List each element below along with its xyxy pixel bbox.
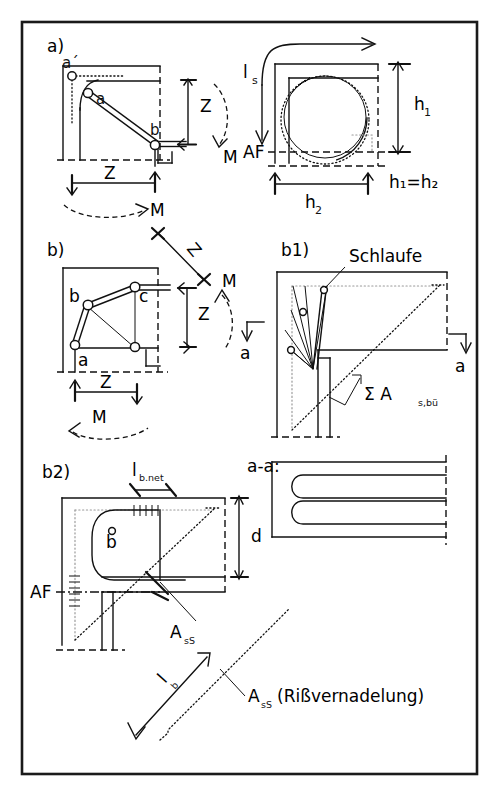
- node-a: [83, 88, 92, 97]
- panel-b1-callout-schlaufe: Schlaufe: [349, 246, 422, 266]
- engineering-diagram-svg: a´ a b Z M: [0, 0, 497, 791]
- figure-root: a´ a b Z M: [0, 0, 497, 791]
- panel-b-label-M-right: M: [222, 271, 237, 291]
- panel-b2-label-node-b: b: [106, 532, 117, 552]
- label-h1-sub: 1: [424, 106, 431, 119]
- stirrup-bar-marker-2: [300, 309, 307, 316]
- panel-b-node-b: [83, 300, 93, 310]
- panel-b1-label-section-a-right: a: [455, 356, 465, 376]
- panel-b-label-Z-horizontal: Z: [100, 372, 112, 392]
- node-a-prime: [68, 72, 76, 80]
- panel-b1-label: b1): [281, 240, 309, 260]
- panel-b-label-node-a: a: [78, 350, 88, 370]
- panel-b2-label-lbnet-sub: b.net: [139, 472, 164, 483]
- panel-a-label: a): [47, 36, 64, 56]
- label-ls-sub-a-right: s: [252, 74, 258, 87]
- label-node-a: a: [96, 90, 105, 108]
- panel-b-node-bottom: [130, 342, 139, 351]
- panel-b-node-a: [70, 340, 79, 349]
- stirrup-bar-marker-3: [288, 347, 295, 354]
- label-h2-sub: 2: [315, 204, 322, 217]
- panel-b1-label-section-a-left: a: [240, 343, 250, 363]
- label-moment-M-bottom-a: M: [150, 200, 165, 220]
- label-dim-Z-vertical-a: Z: [200, 96, 212, 116]
- panel-b-label: b): [47, 240, 64, 260]
- label-ls-a-right: l: [243, 62, 248, 82]
- panel-b-label-Z-vertical: Z: [198, 304, 210, 324]
- panel-b2-label-ass-sub: sS: [184, 635, 195, 646]
- label-node-a-prime: a´: [62, 54, 79, 72]
- label-af-a-right: AF: [243, 142, 264, 162]
- panel-b-label-node-c: c: [139, 286, 148, 306]
- label-node-b: b: [150, 121, 160, 139]
- panel-b2-label-af: AF: [30, 582, 51, 602]
- stirrup-bar-marker-1: [321, 287, 328, 294]
- panel-b1-label-sum-asbu: Σ A: [364, 384, 392, 404]
- label-dim-Z-horizontal-a: Z: [104, 163, 116, 183]
- panel-b2-label-crack-needle-note: (Rißvernadelung): [277, 686, 424, 706]
- node-b: [150, 140, 159, 149]
- panel-b1-label-sum-asbu-sub: s,bü: [418, 397, 438, 408]
- label-moment-M-right-a: M: [223, 147, 238, 167]
- label-h1-eq-h2: h₁=h₂: [389, 172, 438, 192]
- panel-b2-label-lbnet: l: [132, 460, 137, 480]
- panel-b2-label: b2): [42, 462, 70, 482]
- panel-b2-label-ass: A: [170, 622, 182, 642]
- panel-b2-label-d: d: [251, 526, 262, 546]
- panel-b2-label-crack-needle-sub: sS: [261, 699, 272, 710]
- panel-b2-label-crack-needle: A: [248, 686, 260, 706]
- panel-b-label-node-b: b: [69, 286, 80, 306]
- panel-b-label-M-bottom: M: [92, 407, 107, 427]
- section-aa-label: a-a:: [247, 456, 280, 476]
- figure-border: [22, 22, 477, 774]
